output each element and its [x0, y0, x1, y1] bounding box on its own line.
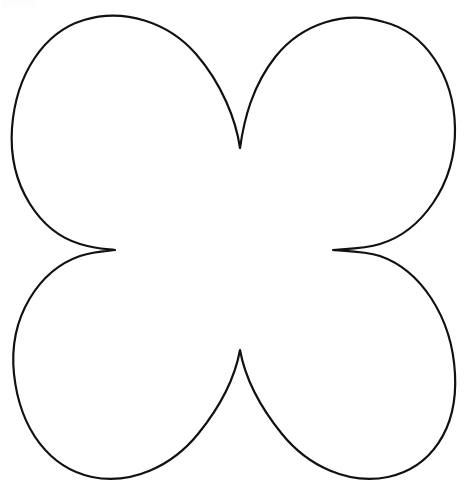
artwork-canvas [0, 0, 469, 484]
four-petal-flower-drawing [0, 0, 469, 484]
page-background [0, 0, 469, 484]
